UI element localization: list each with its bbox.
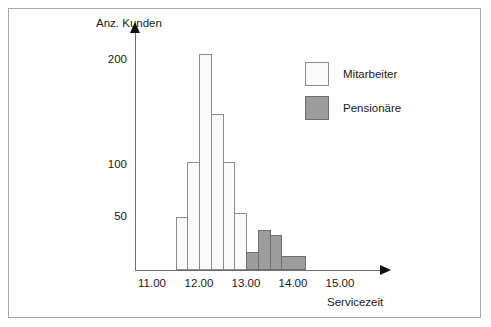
legend-swatch-icon xyxy=(305,96,329,120)
legend-item: Mitarbeiter xyxy=(305,57,401,91)
x-tick-label-14.00: 14.00 xyxy=(270,277,316,289)
x-tick-label-13.00: 13.00 xyxy=(223,277,269,289)
legend-label: Mitarbeiter xyxy=(343,68,397,80)
legend-swatch-icon xyxy=(305,62,329,86)
y-axis-title: Anz. Kunden xyxy=(96,17,162,29)
chart-frame: Anz. Kunden Servicezeit 50100200 11.0012… xyxy=(8,8,481,318)
y-axis-line xyxy=(135,31,136,271)
x-tick-label-15.00: 15.00 xyxy=(317,277,363,289)
legend-label: Pensionäre xyxy=(343,102,401,114)
x-axis-title: Servicezeit xyxy=(327,296,383,308)
y-tick-label-200: 200 xyxy=(87,53,127,65)
x-tick-label-11.00: 11.00 xyxy=(129,277,175,289)
y-tick-label-100: 100 xyxy=(87,158,127,170)
x-tick-label-12.00: 12.00 xyxy=(176,277,222,289)
x-axis-arrow-icon xyxy=(380,265,391,275)
legend-item: Pensionäre xyxy=(305,91,401,125)
bar xyxy=(281,256,306,270)
y-tick-label-50: 50 xyxy=(87,210,127,222)
chart-legend: MitarbeiterPensionäre xyxy=(305,57,401,125)
x-axis-line xyxy=(135,270,387,271)
chart-plot-area: Anz. Kunden Servicezeit 50100200 11.0012… xyxy=(9,9,482,319)
